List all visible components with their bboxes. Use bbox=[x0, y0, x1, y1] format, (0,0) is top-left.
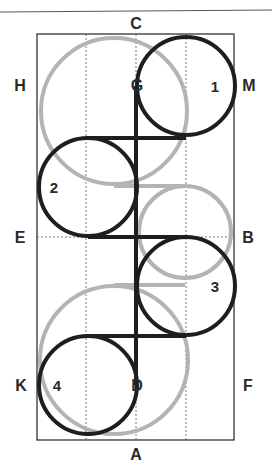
label-point-g: G bbox=[131, 77, 143, 94]
circle-number-4: 4 bbox=[53, 377, 62, 394]
page-top-rule bbox=[0, 10, 272, 12]
label-left-upper: H bbox=[14, 77, 26, 94]
label-right-upper: M bbox=[242, 77, 255, 94]
circle-number-3: 3 bbox=[211, 278, 219, 295]
label-left-middle: E bbox=[15, 229, 26, 246]
circle-number-2: 2 bbox=[50, 179, 58, 196]
gray-circle-middle bbox=[139, 186, 231, 278]
label-left-lower: K bbox=[15, 377, 27, 394]
gray-circle-top bbox=[41, 38, 187, 184]
label-top: C bbox=[130, 15, 142, 32]
label-point-d: D bbox=[131, 377, 143, 394]
label-right-lower: F bbox=[243, 377, 253, 394]
figure-diagram: C A H E K M B F G D 1 2 3 4 bbox=[0, 0, 272, 472]
circle-number-1: 1 bbox=[211, 78, 219, 95]
gray-circle-bottom bbox=[40, 286, 188, 434]
label-right-middle: B bbox=[242, 229, 254, 246]
label-bottom: A bbox=[130, 446, 142, 463]
